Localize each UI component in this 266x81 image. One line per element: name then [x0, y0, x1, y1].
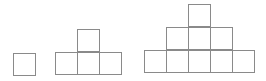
unit-square — [166, 50, 189, 73]
unit-square — [210, 50, 233, 73]
unit-square — [188, 27, 211, 50]
unit-square — [232, 50, 255, 73]
unit-square — [77, 52, 100, 75]
unit-square — [55, 52, 78, 75]
unit-square — [188, 50, 211, 73]
unit-square — [99, 52, 122, 75]
unit-square — [144, 50, 167, 73]
unit-square — [210, 27, 233, 50]
unit-square — [166, 27, 189, 50]
unit-square — [77, 29, 100, 52]
unit-square — [188, 4, 211, 27]
unit-square — [13, 53, 36, 76]
